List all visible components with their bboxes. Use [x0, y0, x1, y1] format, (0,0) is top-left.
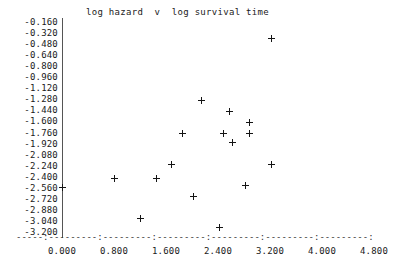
data-point [179, 130, 186, 137]
data-point [229, 139, 236, 146]
x-axis-tick-label: 0.800 [100, 246, 128, 256]
data-point [242, 182, 249, 189]
x-axis-tick-label: 2.400 [204, 246, 232, 256]
x-axis-tick-labels: 0.0000.8001.6002.4003.2004.0004.800 [0, 246, 407, 260]
data-point [216, 224, 223, 231]
data-point [268, 35, 275, 42]
data-point [220, 130, 227, 137]
data-point [59, 184, 66, 191]
data-point [226, 108, 233, 115]
x-axis-tick-label: 4.000 [308, 246, 336, 256]
x-axis-tick-label: 3.200 [256, 246, 284, 256]
data-point [168, 161, 175, 168]
data-point [153, 175, 160, 182]
data-point [137, 215, 144, 222]
data-point [198, 97, 205, 104]
data-point [190, 193, 197, 200]
data-point [111, 175, 118, 182]
data-point [268, 161, 275, 168]
data-point [246, 130, 253, 137]
plot-data-area [0, 0, 407, 240]
x-axis-line: -----:---------:---------:---------:----… [16, 233, 396, 242]
scatter-plot-screen: log hazard v log survival time -0.160-0.… [0, 0, 407, 270]
data-point [246, 119, 253, 126]
x-axis-tick-label: 0.000 [48, 246, 76, 256]
x-axis-tick-label: 4.800 [360, 246, 388, 256]
x-axis-tick-label: 1.600 [152, 246, 180, 256]
